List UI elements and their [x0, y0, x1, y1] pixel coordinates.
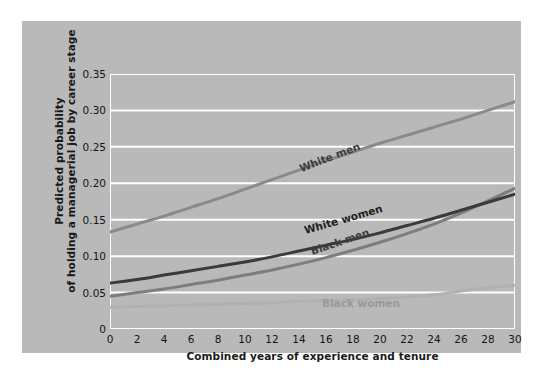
x-tick-label: 24 [427, 333, 440, 345]
y-tick-label: 0 [62, 323, 106, 335]
series-label-black-women: Black women [322, 297, 400, 309]
x-tick-label: 22 [400, 333, 413, 345]
x-tick-label: 14 [292, 333, 305, 345]
series-line-white-women [110, 194, 515, 283]
figure-canvas: Predicted probability of holding a manag… [0, 0, 543, 371]
x-axis-tick-labels: 024681012141618202224262830 [110, 333, 515, 349]
y-tick-label: 0.30 [62, 104, 106, 116]
y-tick-label: 0.20 [62, 177, 106, 189]
y-tick-label: 0.15 [62, 214, 106, 226]
chart-panel: Predicted probability of holding a manag… [22, 21, 521, 353]
plot-area: White menWhite womenBlack menBlack women [110, 74, 515, 329]
y-tick-label: 0.35 [62, 68, 106, 80]
x-axis-title: Combined years of experience and tenure [110, 350, 515, 362]
x-tick-label: 18 [346, 333, 359, 345]
series-line-black-men [110, 188, 515, 296]
x-tick-label: 8 [215, 333, 222, 345]
x-tick-label: 6 [188, 333, 195, 345]
chart-svg [110, 74, 515, 329]
x-tick-label: 2 [134, 333, 141, 345]
y-tick-label: 0.05 [62, 287, 106, 299]
x-tick-label: 30 [508, 333, 521, 345]
x-tick-label: 12 [265, 333, 278, 345]
x-tick-label: 26 [454, 333, 467, 345]
x-tick-label: 16 [319, 333, 332, 345]
x-tick-label: 10 [238, 333, 251, 345]
y-tick-label: 0.25 [62, 141, 106, 153]
y-tick-label: 0.10 [62, 250, 106, 262]
x-tick-label: 4 [161, 333, 168, 345]
x-tick-label: 28 [481, 333, 494, 345]
x-tick-label: 0 [107, 333, 114, 345]
x-tick-label: 20 [373, 333, 386, 345]
y-axis-tick-labels: 00.050.100.150.200.250.300.35 [56, 74, 106, 329]
